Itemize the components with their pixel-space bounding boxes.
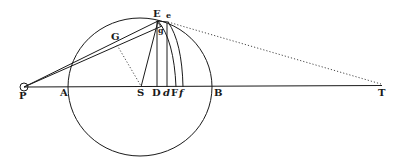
label-d: d <box>163 87 170 98</box>
label-D: D <box>152 87 161 98</box>
dotted-line-GS <box>117 45 141 86</box>
label-B: B <box>214 87 222 98</box>
line-PE <box>24 21 158 87</box>
geometry-diagram: P A G S D d F f B T E e g <box>0 0 402 164</box>
label-S: S <box>137 87 144 98</box>
dotted-line-eT <box>168 22 381 84</box>
label-g: g <box>158 25 164 35</box>
baseline-PT <box>24 86 382 88</box>
label-P: P <box>19 90 27 101</box>
label-f: f <box>178 87 185 98</box>
label-G: G <box>111 31 120 42</box>
line-SE <box>141 21 158 87</box>
label-F: F <box>171 87 178 98</box>
label-A: A <box>59 87 68 98</box>
label-E: E <box>153 8 161 19</box>
label-e: e <box>166 10 171 20</box>
label-T: T <box>378 87 386 98</box>
